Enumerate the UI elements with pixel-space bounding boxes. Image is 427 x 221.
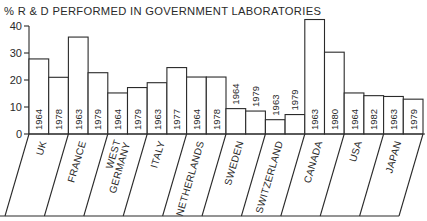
country-label-sweden: SWEDEN: [222, 139, 245, 186]
slant-divider: [399, 134, 423, 216]
y-tick-label: 20: [10, 74, 22, 86]
year-label: 1979: [289, 89, 300, 110]
slant-divider: [84, 134, 108, 216]
year-label: 1977: [171, 109, 182, 130]
country-label-netherlands: NETHERLANDS: [174, 139, 206, 217]
year-label: 1978: [211, 109, 222, 130]
country-label-france: FRANCE: [65, 139, 88, 183]
bar-sweden-1964: [226, 109, 246, 134]
slant-divider: [44, 134, 68, 216]
year-label: 1964: [191, 109, 202, 130]
country-label-uk: UK: [34, 139, 49, 156]
y-tick-label: 0: [16, 128, 22, 140]
year-label: 1982: [368, 109, 379, 130]
year-label: 1979: [408, 109, 419, 130]
year-label: 1979: [132, 109, 143, 130]
year-label: 1964: [33, 109, 44, 130]
slant-divider: [202, 134, 226, 216]
country-label-italy: ITALY: [148, 139, 166, 169]
y-tick-label: 10: [10, 101, 22, 113]
slant-divider: [281, 134, 305, 216]
bar-sweden-1979: [246, 111, 266, 134]
year-label: 1963: [309, 109, 320, 130]
year-label: 1978: [53, 109, 64, 130]
bar-switzerland-1963: [265, 120, 285, 134]
year-label: 1964: [230, 83, 241, 104]
bar-switzerland-1979: [285, 115, 305, 134]
bar-chart: 010203040 196419781963197919641979196319…: [0, 0, 427, 221]
year-label: 1963: [73, 109, 84, 130]
y-axis: 010203040: [10, 20, 29, 140]
year-label: 1964: [349, 109, 360, 130]
year-label: 1963: [270, 95, 281, 116]
year-label: 1979: [250, 86, 261, 107]
year-label: 1980: [329, 109, 340, 130]
year-label: 1963: [388, 109, 399, 130]
y-tick-label: 40: [10, 20, 22, 32]
bars-group: 1964197819631979196419791963197719641978…: [29, 20, 423, 134]
country-label-usa: USA: [347, 139, 364, 163]
year-label: 1964: [112, 109, 123, 130]
y-tick-label: 30: [10, 47, 22, 59]
year-label: 1963: [152, 109, 163, 130]
slant-divider: [360, 134, 384, 216]
country-label-canada: CANADA: [302, 139, 325, 184]
country-label-band: UKFRANCEWESTGERMANYITALYNETHERLANDSSWEDE…: [0, 134, 425, 217]
country-label-japan: JAPAN: [383, 139, 403, 174]
year-label: 1979: [92, 109, 103, 130]
slant-divider: [5, 134, 29, 216]
slant-divider: [320, 134, 344, 216]
country-label-switzerland: SWITZERLAND: [253, 139, 285, 214]
